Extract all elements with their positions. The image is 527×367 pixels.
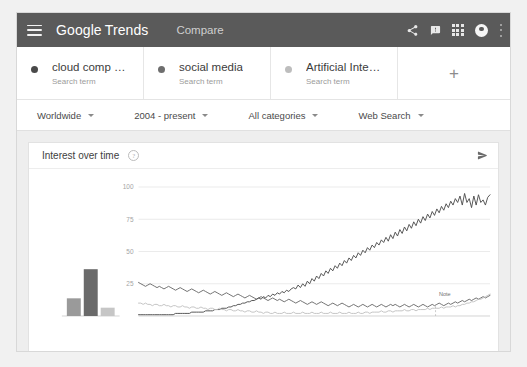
- search-term-sublabel-1: Search term: [52, 77, 126, 87]
- filter-time-range-label: 2004 - present: [134, 110, 195, 121]
- filter-category[interactable]: All categories: [248, 110, 318, 121]
- app-bar: GoogleTrends Compare: [17, 13, 510, 47]
- search-term-sublabel-3: Search term: [306, 77, 380, 87]
- account-avatar-icon[interactable]: [475, 24, 488, 37]
- more-options-icon[interactable]: [499, 24, 502, 37]
- series-color-dot-2: [158, 66, 165, 73]
- chart-note-annotation[interactable]: Note: [437, 291, 453, 297]
- filter-location[interactable]: Worldwide: [37, 110, 94, 121]
- svg-text:50: 50: [126, 248, 134, 255]
- search-term-sublabel-2: Search term: [179, 77, 243, 87]
- filter-bar: Worldwide 2004 - present All categories …: [17, 100, 510, 131]
- chevron-down-icon: [202, 114, 208, 117]
- nav-compare[interactable]: Compare: [176, 24, 223, 36]
- filter-search-type-label: Web Search: [358, 110, 410, 121]
- search-term-card-1[interactable]: cloud comp … Search term: [17, 47, 144, 99]
- filter-time-range[interactable]: 2004 - present: [134, 110, 208, 121]
- plus-icon: +: [449, 65, 459, 82]
- app-bar-actions: [406, 13, 502, 47]
- chart-plot-area: 255075100 Average Jan 1, 2004 Apr 1, 201…: [29, 169, 498, 352]
- hamburger-menu-icon[interactable]: [27, 25, 42, 36]
- share-arrow-icon[interactable]: [477, 147, 488, 165]
- filter-search-type[interactable]: Web Search: [358, 110, 423, 121]
- search-term-card-2[interactable]: social media Search term: [144, 47, 271, 99]
- interest-over-time-line-chart: 255075100: [29, 169, 498, 352]
- brand-logo[interactable]: GoogleTrends: [56, 22, 148, 38]
- search-term-name-3: Artificial Inte…: [306, 60, 380, 74]
- share-icon[interactable]: [406, 24, 419, 37]
- content-area: Interest over time ? 255075100 Average J…: [17, 131, 510, 352]
- series-color-dot-3: [285, 66, 292, 73]
- chevron-down-icon: [312, 114, 318, 117]
- card-title: Interest over time: [42, 150, 119, 161]
- svg-text:100: 100: [123, 183, 134, 190]
- brand-primary-text: Google: [56, 22, 102, 38]
- feedback-icon[interactable]: [430, 25, 441, 36]
- chevron-down-icon: [418, 114, 424, 117]
- search-term-cards: cloud comp … Search term social media Se…: [17, 47, 510, 100]
- svg-text:25: 25: [126, 280, 134, 287]
- series-color-dot-1: [31, 66, 38, 73]
- filter-category-label: All categories: [248, 110, 305, 121]
- brand-secondary-text: Trends: [105, 22, 149, 38]
- add-search-term-button[interactable]: +: [398, 47, 510, 99]
- filter-location-label: Worldwide: [37, 110, 81, 121]
- search-term-name-1: cloud comp …: [52, 60, 126, 74]
- search-term-name-2: social media: [179, 60, 243, 74]
- apps-grid-icon[interactable]: [452, 24, 464, 36]
- svg-text:75: 75: [126, 216, 134, 223]
- help-icon[interactable]: ?: [128, 150, 139, 161]
- interest-over-time-card: Interest over time ? 255075100 Average J…: [28, 142, 499, 352]
- search-term-card-3[interactable]: Artificial Inte… Search term: [271, 47, 398, 99]
- chevron-down-icon: [88, 114, 94, 117]
- browser-page: GoogleTrends Compare: [16, 12, 511, 352]
- card-header: Interest over time ?: [29, 143, 498, 169]
